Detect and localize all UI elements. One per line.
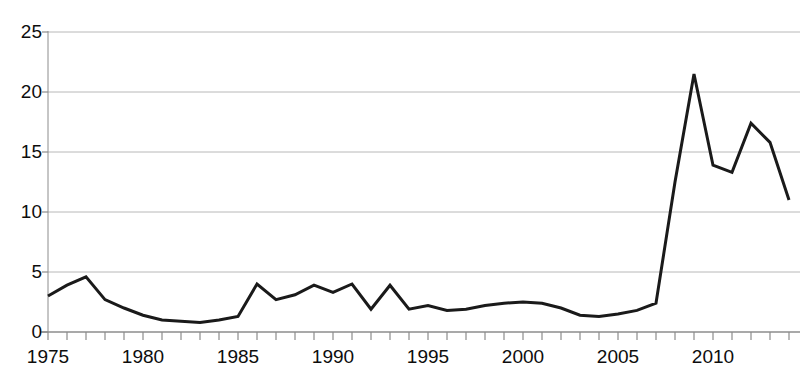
x-axis-tick-labels: 19751980198519901995200020052010 — [0, 0, 808, 385]
x-tick-label: 2005 — [597, 346, 639, 368]
x-tick-label: 1995 — [407, 346, 449, 368]
line-chart: 0510152025 19751980198519901995200020052… — [0, 0, 808, 385]
x-tick-label: 1990 — [312, 346, 354, 368]
x-tick-label: 2010 — [692, 346, 734, 368]
x-tick-label: 1975 — [27, 346, 69, 368]
x-tick-label: 1985 — [217, 346, 259, 368]
x-tick-label: 1980 — [122, 346, 164, 368]
x-tick-label: 2000 — [502, 346, 544, 368]
